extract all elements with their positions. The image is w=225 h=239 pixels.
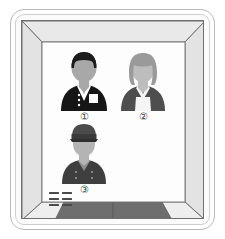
control-dash[interactable] — [62, 198, 72, 200]
control-dash[interactable] — [49, 192, 59, 194]
right-wall-panel — [185, 21, 204, 219]
figure-3-label: ③ — [80, 185, 89, 195]
figure-2-label: ② — [139, 112, 148, 122]
elevator-interior: ① ② — [21, 20, 204, 219]
left-wall-panel — [22, 21, 42, 219]
woman-with-apron-icon — [118, 51, 168, 111]
control-dash[interactable] — [62, 204, 72, 206]
control-dash[interactable] — [49, 198, 59, 200]
ceiling-panel — [22, 21, 204, 42]
figure-3[interactable]: ③ — [59, 122, 109, 196]
person-in-black-jacket-icon — [58, 49, 110, 111]
illustration-canvas: ① ② — [0, 0, 225, 239]
uniformed-attendant-icon — [59, 122, 109, 184]
figure-2[interactable]: ② — [118, 51, 168, 123]
figure-1[interactable]: ① — [58, 49, 110, 123]
floor-plate-right — [113, 202, 172, 219]
control-dash[interactable] — [49, 204, 59, 206]
perspective-walls — [22, 21, 204, 219]
figure-1-label: ① — [80, 112, 89, 122]
